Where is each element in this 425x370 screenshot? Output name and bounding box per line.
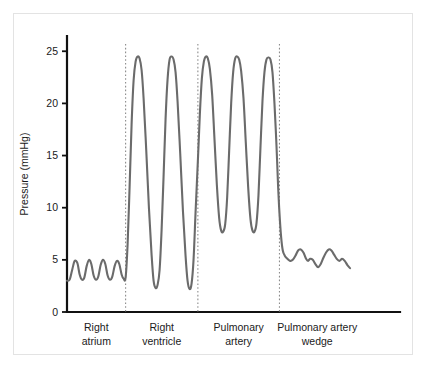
y-tick-label: 5: [52, 253, 58, 265]
section-label-line1: Right: [149, 321, 174, 333]
y-tick-label: 10: [46, 201, 58, 213]
section-label-line1: Pulmonary artery: [277, 321, 358, 333]
pressure-trace: [67, 56, 350, 289]
section-divider-lines: [126, 44, 280, 312]
y-tick-label: 15: [46, 149, 58, 161]
section-labels: RightatriumRightventriclePulmonaryartery…: [82, 321, 358, 347]
y-tick-label: 25: [46, 45, 58, 57]
figure-root: 0510152025 Pressure (mmHg) RightatriumRi…: [0, 0, 425, 370]
section-label-line2: artery: [225, 335, 253, 347]
section-label-line2: ventricle: [142, 335, 181, 347]
y-tick-label: 20: [46, 97, 58, 109]
section-label-line2: atrium: [82, 335, 111, 347]
section-label-line1: Right: [84, 321, 109, 333]
y-axis-title: Pressure (mmHg): [18, 133, 30, 216]
y-axis: 0510152025 Pressure (mmHg): [18, 36, 67, 318]
y-tick-label: 0: [52, 306, 58, 318]
waveform-traces: [67, 56, 350, 289]
section-label-line1: Pulmonary: [214, 321, 265, 333]
pressure-waveform-chart: 0510152025 Pressure (mmHg) RightatriumRi…: [0, 0, 425, 370]
section-label-line2: wedge: [301, 335, 333, 347]
y-tick-labels: 0510152025: [46, 45, 58, 318]
